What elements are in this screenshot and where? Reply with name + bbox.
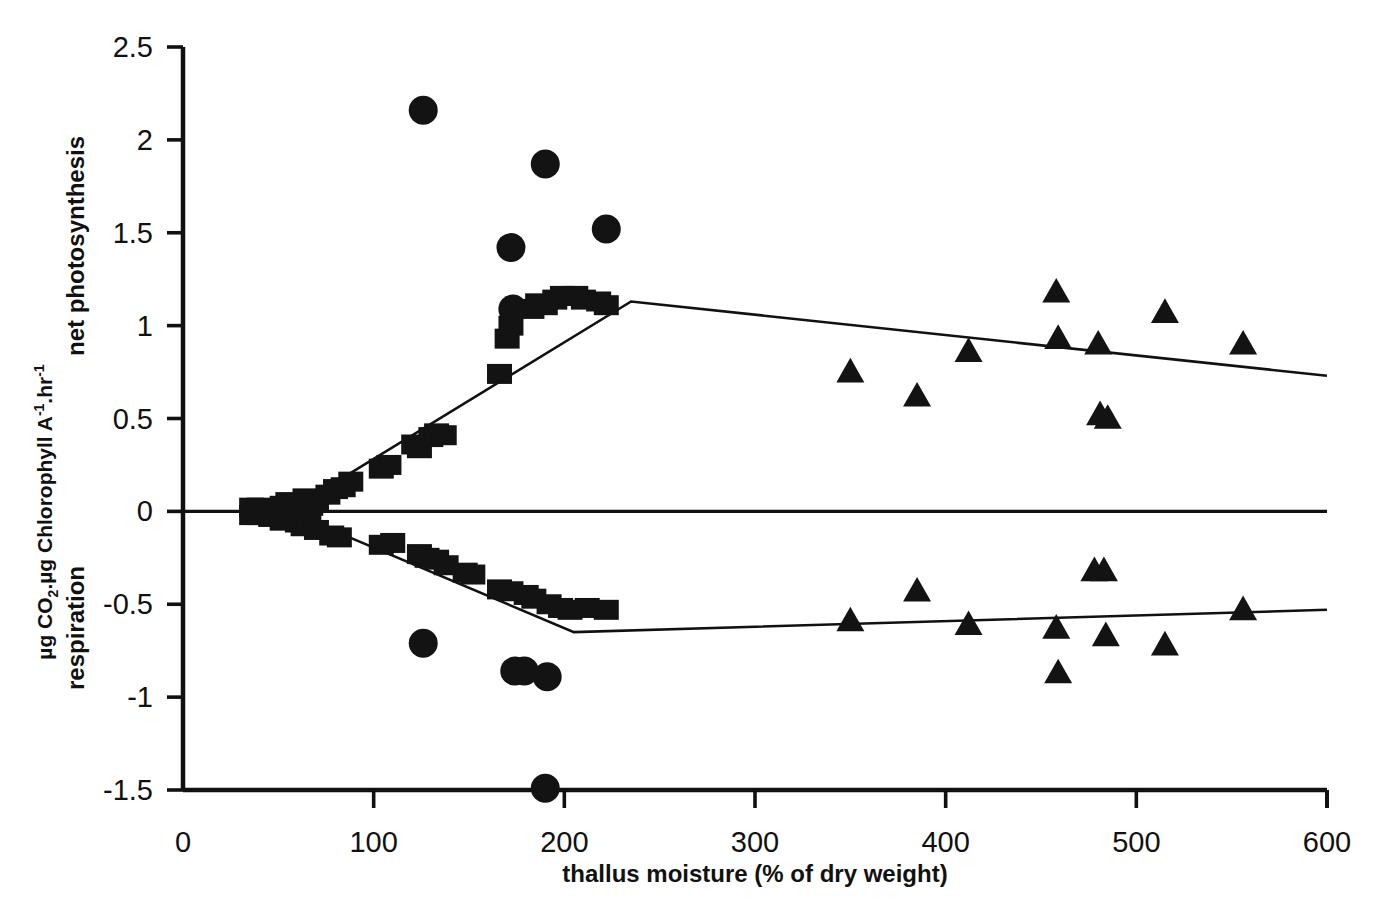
x-tick-label: 500 (1112, 826, 1160, 858)
data-point-triangle (1151, 298, 1179, 323)
svg-text:respiration: respiration (62, 566, 89, 690)
y-axis-title-respiration: respiration (62, 566, 89, 690)
data-point-triangle (903, 577, 931, 602)
x-tick-label: 300 (731, 826, 779, 858)
x-tick-label: 0 (175, 826, 191, 858)
y-tick-label: 2 (137, 124, 153, 156)
x-axis-title: thallus moisture (% of dry weight) (562, 860, 947, 887)
scatter-plot: 2.521.510.50-0.5-1-1.5010020030040050060… (0, 0, 1383, 918)
data-point-circle (409, 96, 438, 125)
data-point-triangle (1044, 324, 1072, 349)
data-point-square (327, 527, 352, 547)
data-point-triangle (836, 358, 864, 383)
data-point-circle (496, 233, 525, 262)
data-point-triangle (1044, 659, 1072, 684)
y-axis-title-net-photosynthesis: net photosynthesis (62, 136, 89, 356)
data-point-circle (592, 215, 621, 244)
svg-text:net photosynthesis: net photosynthesis (62, 136, 89, 356)
data-point-square (380, 533, 405, 553)
svg-text:µg CO2.µg Chlorophyll A-1.hr-1: µg CO2.µg Chlorophyll A-1.hr-1 (31, 364, 61, 660)
data-point-triangle (836, 607, 864, 632)
y-tick-label: -1 (127, 681, 153, 713)
data-point-triangle (1084, 330, 1112, 355)
data-point-circle (498, 294, 527, 323)
data-point-triangle (955, 337, 983, 362)
data-point-square (460, 565, 485, 585)
data-point-square (432, 425, 457, 445)
y-tick-label: -0.5 (103, 588, 153, 620)
data-point-triangle (1151, 631, 1179, 656)
x-tick-label: 200 (540, 826, 588, 858)
y-tick-label: 1 (137, 310, 153, 342)
chart-page: 2.521.510.50-0.5-1-1.5010020030040050060… (0, 0, 1383, 918)
data-point-square (487, 364, 512, 384)
y-tick-label: 0 (137, 495, 153, 527)
data-point-circle (531, 774, 560, 803)
x-tick-label: 400 (921, 826, 969, 858)
axis-labels-group: 2.521.510.50-0.5-1-1.5010020030040050060… (31, 31, 1351, 887)
axes-group (167, 47, 1327, 808)
fit-lines-group (288, 301, 1327, 632)
data-point-triangle (1229, 596, 1257, 621)
data-point-circle (533, 662, 562, 691)
y-axis-title-units: µg CO2.µg Chlorophyll A-1.hr-1 (31, 364, 61, 660)
data-point-circle (531, 150, 560, 179)
data-point-square (338, 472, 363, 492)
x-tick-label: 100 (349, 826, 397, 858)
data-point-triangle (955, 610, 983, 635)
y-tick-label: 2.5 (113, 31, 153, 63)
data-point-square (376, 455, 401, 475)
data-point-square (594, 600, 619, 620)
y-tick-label: 0.5 (113, 403, 153, 435)
data-point-triangle (903, 382, 931, 407)
regression-line (288, 301, 1327, 511)
data-point-square (594, 295, 619, 315)
data-point-triangle (1229, 330, 1257, 355)
data-point-triangle (1042, 278, 1070, 303)
y-tick-label: -1.5 (103, 774, 153, 806)
data-point-triangle (1092, 622, 1120, 647)
y-tick-label: 1.5 (113, 217, 153, 249)
data-point-circle (409, 629, 438, 658)
x-tick-label: 600 (1303, 826, 1351, 858)
